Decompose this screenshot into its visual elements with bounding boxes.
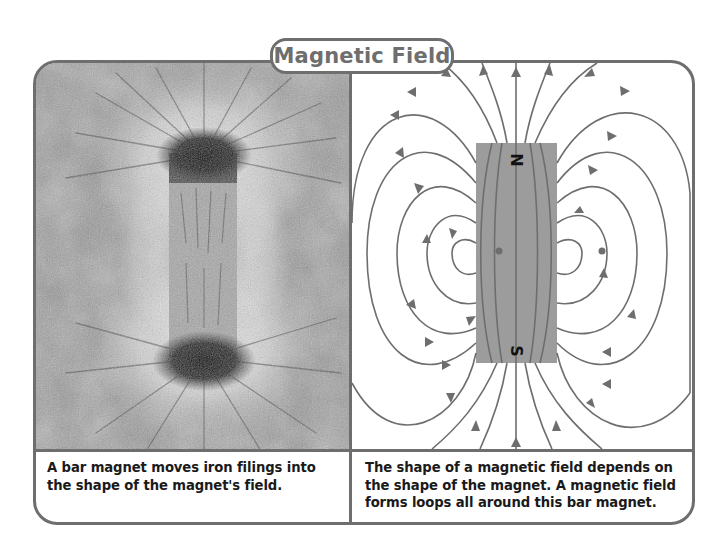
north-pole-label: N <box>507 153 526 166</box>
south-pole-label: S <box>507 345 526 357</box>
figure-frame: N S A bar magnet moves iron filings into… <box>33 60 695 525</box>
left-caption: A bar magnet moves iron filings into the… <box>47 459 337 494</box>
page-title: Magnetic Field <box>273 44 450 68</box>
iron-filings-photo <box>36 63 352 451</box>
iron-filings-image <box>36 63 352 451</box>
title-badge: Magnetic Field <box>270 38 454 74</box>
right-caption: The shape of a magnetic field depends on… <box>365 459 685 512</box>
field-dot-right <box>599 248 606 255</box>
field-lines-svg: N S <box>352 63 692 449</box>
field-dot-left <box>496 248 503 255</box>
panel-divider-horizontal <box>36 449 692 452</box>
field-lines-diagram: N S <box>352 63 692 449</box>
